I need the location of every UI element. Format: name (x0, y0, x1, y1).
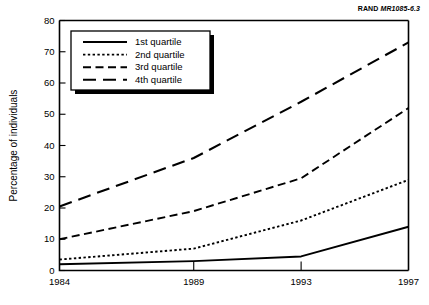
series-line-1st-quartile (60, 227, 409, 265)
series-line-3rd-quartile (60, 108, 409, 239)
y-tick-label: 50 (44, 108, 55, 119)
legend-label-1st-quartile: 1st quartile (135, 36, 181, 47)
source-code: MR1085-6.3 (380, 5, 420, 12)
y-axis-ticks: 01020304050607080 (44, 15, 66, 276)
x-axis-ticks: 1984198919931997 (49, 262, 419, 287)
x-tick-label: 1993 (291, 276, 312, 287)
source-brand: RAND (358, 5, 379, 12)
x-tick-label: 1989 (183, 276, 204, 287)
y-tick-label: 40 (44, 140, 55, 151)
y-axis-label: Percentage of individuals (8, 90, 19, 202)
y-tick-label: 30 (44, 171, 55, 182)
x-tick-label: 1997 (398, 276, 419, 287)
legend-label-4th-quartile: 4th quartile (135, 74, 182, 85)
x-tick-label: 1984 (49, 276, 70, 287)
source-note: RAND MR1085-6.3 (358, 5, 420, 12)
y-tick-label: 60 (44, 77, 55, 88)
y-tick-label: 0 (49, 265, 54, 276)
chart-figure: RAND MR1085-6.3 01020304050607080 198419… (0, 0, 429, 305)
series-line-2nd-quartile (60, 180, 409, 260)
y-tick-label: 80 (44, 15, 55, 26)
line-chart-plot: 01020304050607080 1984198919931997 1st q… (0, 0, 429, 305)
y-tick-label: 70 (44, 46, 55, 57)
legend-label-2nd-quartile: 2nd quartile (135, 49, 185, 60)
y-tick-label: 10 (44, 233, 55, 244)
legend-label-3rd-quartile: 3rd quartile (135, 61, 183, 72)
y-tick-label: 20 (44, 202, 55, 213)
chart-legend: 1st quartile2nd quartile3rd quartile4th … (71, 31, 214, 94)
